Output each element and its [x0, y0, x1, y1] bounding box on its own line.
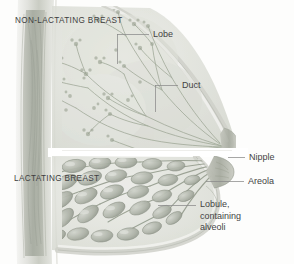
section-divider	[48, 148, 248, 157]
callout-label-duct: Duct	[182, 80, 201, 92]
callout-label-nipple: Nipple	[249, 152, 275, 164]
callout-label-lobe: Lobe	[153, 29, 173, 41]
callout-label-lobule: Lobule, containing alveoli	[200, 199, 241, 234]
section-label-lactating: LACTATING BREAST	[14, 174, 99, 183]
section-label-non-lactating: NON-LACTATING BREAST	[15, 16, 123, 25]
anatomy-illustration	[0, 0, 294, 264]
breast-anatomy-figure: NON-LACTATING BREAST LACTATING BREAST Lo…	[0, 0, 294, 264]
callout-label-areola: Areola	[248, 176, 274, 188]
chest-wall	[16, 0, 57, 264]
